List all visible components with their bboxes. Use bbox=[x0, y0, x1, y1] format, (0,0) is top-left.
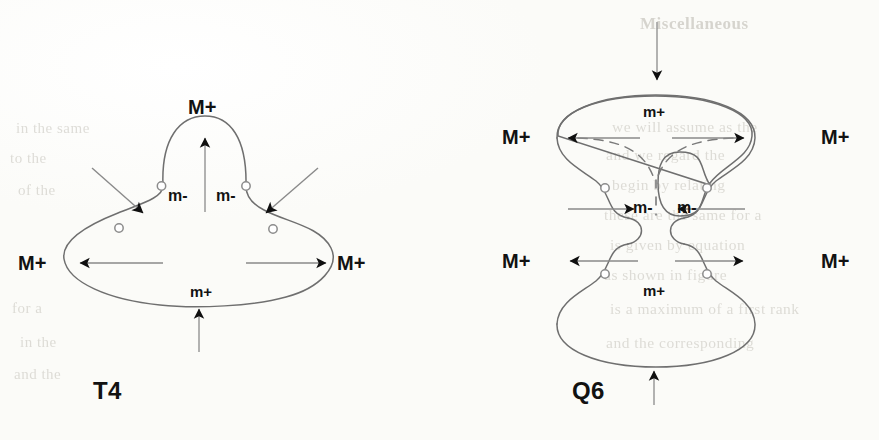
q6-label-lower-minimum: m+ bbox=[643, 283, 665, 298]
bleed-heading: Miscellaneous bbox=[640, 14, 749, 34]
figure-q6 bbox=[557, 22, 755, 405]
inflection-marker bbox=[703, 270, 711, 278]
inflection-marker bbox=[242, 182, 250, 190]
q6-label-upper-left-maximum: M+ bbox=[502, 127, 530, 147]
t4-outline bbox=[64, 116, 333, 307]
q6-label-waist-left-saddle: m- bbox=[633, 200, 653, 216]
q6-label-lower-left-maximum: M+ bbox=[502, 251, 530, 271]
inflection-marker bbox=[115, 224, 123, 232]
t4-label-right-saddle: m- bbox=[216, 188, 236, 204]
q6-dashed-separatrix-right bbox=[656, 138, 733, 182]
t4-upper-left-arrow bbox=[92, 168, 143, 213]
q6-upper-lobe-left-tail bbox=[557, 138, 628, 218]
q6-figure-caption: Q6 bbox=[572, 379, 605, 403]
bleed-line: and we regard the bbox=[606, 146, 725, 164]
bleed-line: and the corresponding bbox=[606, 334, 754, 352]
t4-label-left-saddle: m- bbox=[168, 188, 188, 204]
bleed-line: to the bbox=[10, 150, 47, 167]
inflection-marker bbox=[269, 225, 277, 233]
q6-label-waist-right-saddle: m- bbox=[677, 200, 697, 216]
bleed-line: in the same bbox=[16, 120, 90, 137]
t4-label-left-maximum: M+ bbox=[18, 253, 46, 273]
t4-upper-right-arrow bbox=[266, 168, 318, 213]
t4-figure-caption: T4 bbox=[93, 379, 122, 403]
figure-t4 bbox=[64, 116, 333, 352]
bleed-line: is a maximum of a first rank bbox=[610, 300, 800, 318]
bleed-line: and the bbox=[14, 366, 61, 383]
inflection-marker bbox=[601, 184, 609, 192]
inflection-marker bbox=[703, 184, 711, 192]
bleed-line: is given by equation bbox=[610, 236, 745, 254]
bleed-line: for a bbox=[12, 300, 42, 317]
t4-label-top-maximum: M+ bbox=[188, 97, 216, 117]
q6-waist-right bbox=[671, 218, 685, 244]
bleed-line: in the bbox=[20, 334, 57, 351]
bleed-line: we will assume as the bbox=[612, 118, 758, 136]
inflection-marker bbox=[157, 182, 165, 190]
q6-label-upper-minimum: m+ bbox=[643, 104, 665, 119]
bleed-line: as shown in figure bbox=[604, 266, 727, 284]
q6-waist-left bbox=[628, 218, 642, 244]
t4-label-right-maximum: M+ bbox=[337, 253, 365, 273]
q6-label-upper-right-maximum: M+ bbox=[821, 127, 849, 147]
inflection-marker bbox=[601, 270, 609, 278]
t4-label-bottom-minimum: m+ bbox=[190, 284, 212, 299]
figure-line-art bbox=[0, 0, 879, 440]
scanned-page: Miscellaneous we will assume as the and … bbox=[0, 0, 879, 440]
q6-dashed-separatrix-left bbox=[578, 138, 655, 182]
q6-lower-lobe bbox=[557, 244, 755, 367]
q6-label-lower-right-maximum: M+ bbox=[821, 251, 849, 271]
bleed-line: begin by relating bbox=[612, 176, 726, 194]
q6-lower-lobe-left-tail bbox=[557, 244, 628, 324]
bleed-line: of the bbox=[18, 182, 56, 199]
